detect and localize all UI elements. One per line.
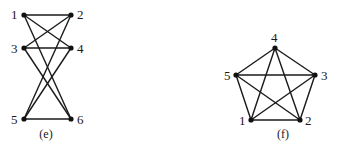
graph-f-k5: 12345(f) (224, 30, 328, 141)
vertex-label: 3 (321, 68, 328, 83)
vertex-5 (233, 72, 238, 77)
vertex-6 (68, 116, 73, 121)
edge-4-5 (236, 48, 275, 75)
graph-caption: (e) (39, 127, 52, 141)
vertex-label: 6 (77, 112, 84, 127)
vertex-4 (272, 45, 277, 50)
vertex-5 (21, 116, 26, 121)
vertex-label: 2 (305, 113, 312, 128)
edge-1-4 (251, 48, 275, 120)
vertex-2 (297, 117, 302, 122)
graph-caption: (f) (277, 127, 289, 141)
vertex-label: 4 (77, 41, 84, 56)
vertex-2 (68, 12, 73, 17)
vertex-label: 1 (239, 113, 246, 128)
edge-2-4 (275, 48, 300, 120)
graph-figure: 123456(e) 12345(f) (0, 0, 337, 160)
vertex-3 (21, 45, 26, 50)
vertex-label: 2 (77, 7, 84, 22)
vertex-label: 4 (271, 30, 278, 45)
vertex-4 (68, 45, 73, 50)
edge-3-4 (275, 48, 315, 75)
vertex-1 (248, 117, 253, 122)
vertex-label: 5 (11, 112, 18, 127)
vertex-label: 1 (11, 7, 18, 22)
graph-e-k33: 123456(e) (11, 7, 84, 141)
edge-2-5 (236, 75, 300, 120)
vertex-label: 3 (11, 41, 18, 56)
vertex-3 (312, 72, 317, 77)
vertex-1 (21, 12, 26, 17)
vertex-label: 5 (224, 68, 231, 83)
